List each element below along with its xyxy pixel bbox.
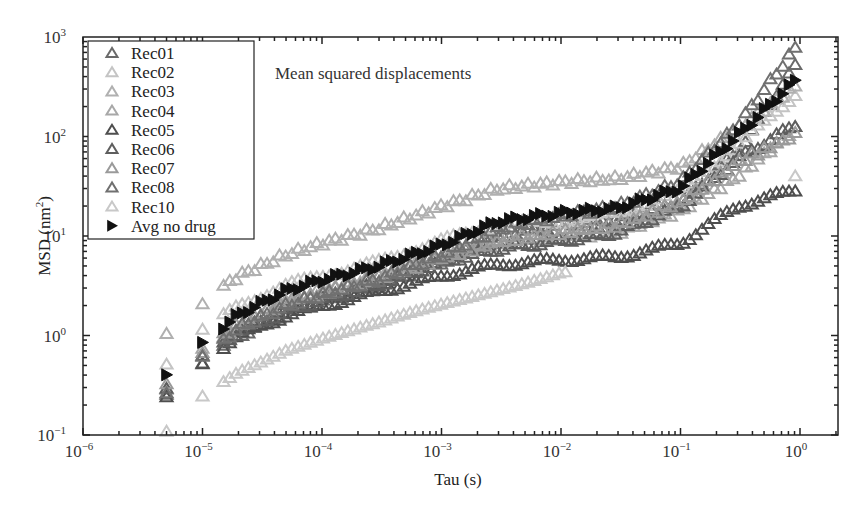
x-tick-label: 10−3	[423, 440, 452, 461]
legend-label: Rec06	[131, 140, 174, 159]
legend-label: Avg no drug	[131, 217, 216, 236]
data-points	[160, 42, 801, 436]
legend-label: Rec10	[131, 198, 174, 217]
legend-label: Rec03	[131, 82, 174, 101]
x-tick-label: 100	[785, 440, 808, 461]
x-tick-labels: 10−610−510−410−310−210−1100	[65, 440, 808, 461]
x-tick-label: 10−1	[662, 440, 691, 461]
legend-label: Rec02	[131, 63, 174, 82]
series-rec08	[160, 42, 801, 397]
y-axis-title: MSD (nm2)	[33, 196, 54, 276]
x-axis-title: Tau (s)	[434, 470, 481, 489]
legend-label: Rec08	[131, 178, 174, 197]
y-tick-label: 100	[44, 325, 67, 346]
legend: Rec01Rec02Rec03Rec04Rec05Rec06Rec07Rec08…	[88, 41, 254, 239]
legend-label: Rec01	[131, 44, 174, 63]
msd-chart: 10−610−510−410−310−210−1100 10−110010110…	[0, 0, 859, 512]
legend-label: Rec07	[131, 159, 175, 178]
x-tick-label: 10−4	[304, 440, 333, 461]
y-tick-label: 103	[44, 26, 67, 47]
y-tick-label: 102	[44, 126, 67, 147]
x-tick-label: 10−2	[543, 440, 572, 461]
x-tick-label: 10−5	[184, 440, 213, 461]
annotation-text: Mean squared displacements	[275, 64, 471, 83]
legend-label: Rec05	[131, 121, 174, 140]
legend-label: Rec04	[131, 102, 175, 121]
y-tick-label: 10−1	[37, 424, 66, 445]
x-tick-label: 10−6	[65, 440, 94, 461]
